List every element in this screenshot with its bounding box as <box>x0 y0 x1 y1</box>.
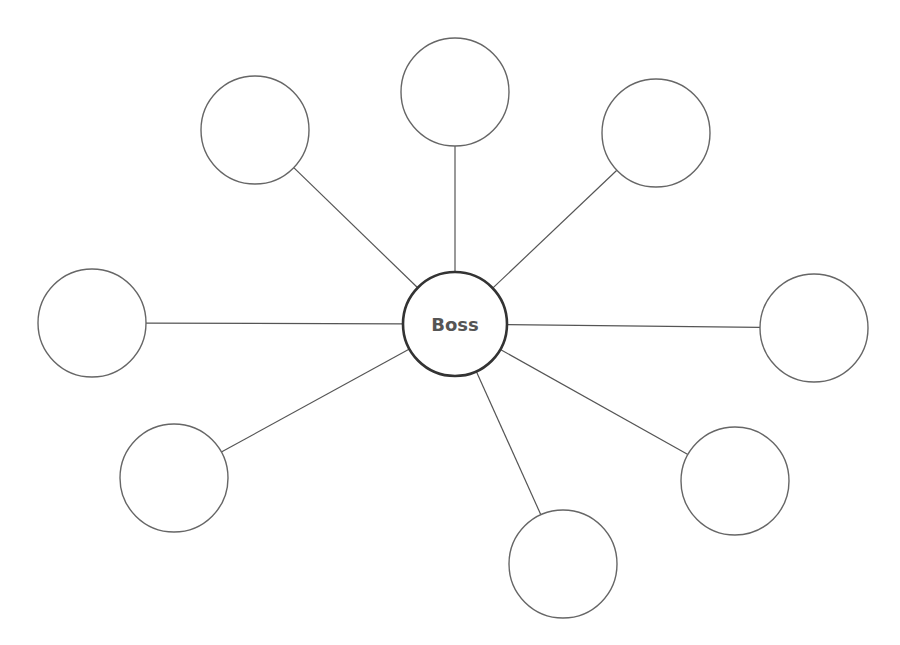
center-node[interactable]: Boss <box>403 272 507 376</box>
satellite-node-bottom-left[interactable] <box>120 424 228 532</box>
satellite-node-top-right[interactable] <box>602 79 710 187</box>
connector-line-left <box>146 323 403 324</box>
satellite-node-top[interactable] <box>401 38 509 146</box>
connector-line-bottom-left <box>221 349 409 452</box>
satellite-circle[interactable] <box>38 269 146 377</box>
connector-line-bottom <box>476 371 541 514</box>
satellite-circle[interactable] <box>201 76 309 184</box>
satellite-circle[interactable] <box>509 510 617 618</box>
connector-line-bottom-right <box>500 349 688 454</box>
center-label: Boss <box>431 314 479 335</box>
spider-diagram: Boss <box>0 0 900 645</box>
satellite-node-left[interactable] <box>38 269 146 377</box>
satellite-circle[interactable] <box>401 38 509 146</box>
connector-line-top-left <box>294 168 418 288</box>
satellite-node-bottom-right[interactable] <box>681 427 789 535</box>
connector-line-top-right <box>493 170 617 288</box>
satellite-node-bottom[interactable] <box>509 510 617 618</box>
satellite-circle[interactable] <box>120 424 228 532</box>
satellite-circle[interactable] <box>760 274 868 382</box>
satellite-circle[interactable] <box>602 79 710 187</box>
connector-line-right <box>507 325 760 328</box>
satellite-node-top-left[interactable] <box>201 76 309 184</box>
satellite-node-right[interactable] <box>760 274 868 382</box>
satellite-circle[interactable] <box>681 427 789 535</box>
